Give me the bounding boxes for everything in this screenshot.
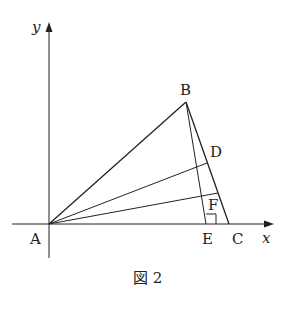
segment-AF xyxy=(49,193,218,224)
point-label-A: A xyxy=(29,230,41,248)
right-angle-marker xyxy=(206,214,216,224)
y-axis-label: y xyxy=(31,18,41,36)
figure-caption: 図 2 xyxy=(133,269,162,287)
y-axis-arrow-icon xyxy=(46,22,53,32)
segment-AD xyxy=(49,163,207,224)
point-label-F: F xyxy=(208,196,218,214)
x-axis-arrow-icon xyxy=(264,221,274,228)
point-label-C: C xyxy=(232,230,243,248)
geometry-figure: y x A B C D E F 図 2 xyxy=(0,0,286,314)
segment-AB xyxy=(49,102,186,224)
segment-BE xyxy=(186,102,206,224)
point-label-B: B xyxy=(180,81,191,99)
point-label-E: E xyxy=(202,230,213,248)
segment-DE xyxy=(206,163,207,224)
point-label-D: D xyxy=(210,143,222,161)
x-axis-label: x xyxy=(262,229,271,247)
